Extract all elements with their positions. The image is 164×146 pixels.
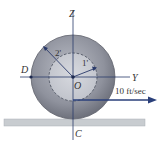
z-axis-label: Z <box>69 8 75 19</box>
point-c-label: C <box>75 128 82 139</box>
y-axis-label: Y <box>132 72 139 83</box>
inner-radius-label: 1' <box>82 58 89 68</box>
velocity-label: 10 ft/sec <box>115 86 146 96</box>
point-d <box>29 75 32 78</box>
velocity-arrowhead <box>148 97 157 104</box>
point-d-label: D <box>20 64 29 75</box>
center-point-o <box>71 75 75 79</box>
outer-radius-label: 2' <box>55 48 62 58</box>
ground-surface <box>4 119 145 126</box>
rolling-disk-diagram: Z Y O D C 2' 1' 10 ft/sec <box>0 0 164 146</box>
center-label: O <box>74 80 81 91</box>
